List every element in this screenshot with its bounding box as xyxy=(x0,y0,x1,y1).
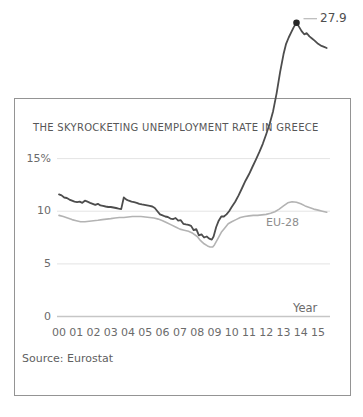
x-tick-label: 04 xyxy=(121,326,135,339)
x-tick-label: 01 xyxy=(69,326,83,339)
x-tick-label: 13 xyxy=(277,326,291,339)
x-tick-label: 05 xyxy=(138,326,152,339)
chart-title: THE SKYROCKETING UNEMPLOYMENT RATE IN GR… xyxy=(33,122,319,133)
x-tick-label: 10 xyxy=(225,326,239,339)
peak-dot-marker xyxy=(293,19,300,26)
x-tick-labels: 00010203040506070809101112131415 xyxy=(0,326,363,340)
x-axis-title: Year xyxy=(293,301,317,315)
series-label-eu-28: EU-28 xyxy=(266,216,299,229)
x-tick-label: 14 xyxy=(294,326,308,339)
x-tick-label: 00 xyxy=(52,326,66,339)
x-tick-label: 02 xyxy=(87,326,101,339)
y-tick-label: 15% xyxy=(0,152,51,166)
x-tick-label: 08 xyxy=(190,326,204,339)
unemployment-chart-page: THE SKYROCKETING UNEMPLOYMENT RATE IN GR… xyxy=(0,0,363,417)
x-tick-label: 11 xyxy=(242,326,256,339)
x-tick-label: 03 xyxy=(104,326,118,339)
x-tick-label: 09 xyxy=(207,326,221,339)
x-tick-label: 07 xyxy=(173,326,187,339)
y-tick-label: 10 xyxy=(0,204,51,218)
y-tick-label: 5 xyxy=(0,257,51,271)
x-tick-label: 15 xyxy=(311,326,325,339)
x-tick-label: 12 xyxy=(259,326,273,339)
source-note: Source: Eurostat xyxy=(22,352,113,365)
y-tick-label: 0 xyxy=(0,310,51,324)
peak-annotation-label: 27.9 xyxy=(320,11,347,25)
x-tick-label: 06 xyxy=(156,326,170,339)
